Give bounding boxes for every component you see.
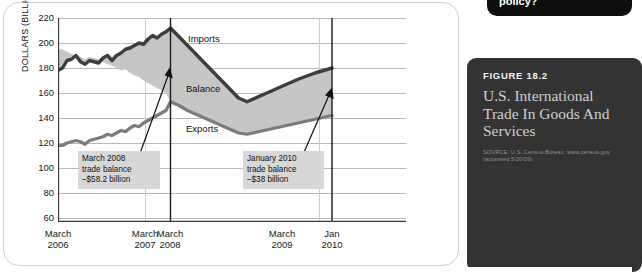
figure-title: U.S. International Trade In Goods And Se… [483,87,628,140]
question-card-text: policy? [499,0,538,7]
figure-caption-card: FIGURE 18.2 U.S. International Trade In … [467,58,642,272]
x-tick-march-2008: March 2008 [135,228,205,250]
x-tick-jan-2010-line1: Jan [297,228,367,239]
series-label-exports: Exports [186,123,218,134]
march-2008-callout: March 2008 trade balance –$58.2 billion [78,151,160,189]
chart-plot-svg [58,18,406,222]
figure-number: FIGURE 18.2 [483,70,628,81]
y-tick-180: 180 [10,63,54,73]
january-2010-callout: January 2010 trade balance –$38 billion [243,151,324,189]
x-tick-march-2006-line1: March [23,228,93,239]
plot-area: DOLLARS (BILLIONS) 220 200 180 160 140 1… [58,18,406,222]
y-tick-80: 80 [10,188,54,198]
y-tick-160: 160 [10,88,54,98]
series-label-imports: Imports [188,33,220,44]
figure-source: SOURCE: U.S. Census Bureau, www.census.g… [483,149,628,164]
page-bottom-strip [0,267,632,272]
x-tick-march-2008-line1: March [135,228,205,239]
x-tick-jan-2010-line2: 2010 [297,239,367,250]
y-tick-60: 60 [10,213,54,223]
y-tick-220: 220 [10,13,54,23]
x-tick-march-2006-line2: 2006 [23,239,93,250]
y-tick-100: 100 [10,163,54,173]
y-tick-140: 140 [10,113,54,123]
x-tick-jan-2010: Jan 2010 [297,228,367,250]
x-tick-march-2006: March 2006 [23,228,93,250]
y-tick-120: 120 [10,138,54,148]
x-tick-march-2008-line2: 2008 [135,239,205,250]
series-label-balance: Balance [186,83,220,94]
question-card: policy? [487,0,632,16]
y-tick-200: 200 [10,38,54,48]
chart-container: DOLLARS (BILLIONS) 220 200 180 160 140 1… [0,0,459,268]
y-axis-title: DOLLARS (BILLIONS) [20,0,30,72]
